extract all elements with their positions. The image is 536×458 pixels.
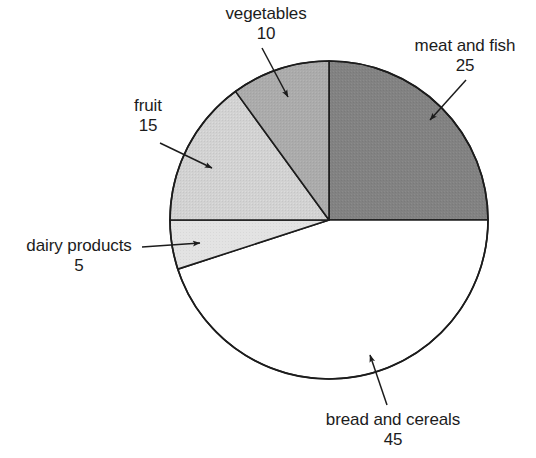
callout-meat-and-fish-value: 25 [398, 56, 532, 76]
callout-fruit-value: 15 [96, 116, 200, 136]
callout-dairy-products: dairy products 5 [4, 236, 154, 276]
callout-vegetables: vegetables 10 [196, 4, 336, 44]
callout-bread-and-cereals-label: bread and cereals [300, 410, 486, 430]
callout-dairy-products-value: 5 [4, 256, 154, 276]
callout-meat-and-fish: meat and fish 25 [398, 36, 532, 76]
callout-bread-and-cereals: bread and cereals 45 [300, 410, 486, 450]
callout-vegetables-label: vegetables [196, 4, 336, 24]
callout-fruit-label: fruit [96, 96, 200, 116]
callout-fruit: fruit 15 [96, 96, 200, 136]
callout-bread-and-cereals-value: 45 [300, 430, 486, 450]
callout-meat-and-fish-label: meat and fish [398, 36, 532, 56]
callout-vegetables-value: 10 [196, 24, 336, 44]
pie-chart-figure: vegetables 10 meat and fish 25 fruit 15 … [0, 0, 536, 458]
pie-slice-meat-and-fish[interactable] [329, 61, 488, 220]
callout-dairy-products-label: dairy products [4, 236, 154, 256]
